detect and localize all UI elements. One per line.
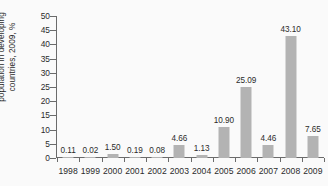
x-axis-tick-label: 2007 — [257, 166, 279, 176]
bar-slot: 1.13 — [191, 16, 213, 158]
bar — [263, 145, 274, 158]
bar-slot: 0.11 — [57, 16, 79, 158]
bar-value-label: 10.90 — [214, 116, 235, 125]
x-axis-tick — [102, 158, 103, 162]
x-axis-tick-label: 2006 — [235, 166, 257, 176]
bar-value-label: 0.02 — [82, 146, 98, 155]
x-axis-tick — [280, 158, 281, 162]
y-axis-tick-label: 20 — [6, 96, 50, 106]
x-axis-tick-label: 1999 — [79, 166, 101, 176]
y-axis-tick-label: 35 — [6, 54, 50, 64]
y-axis-tick-label: 0 — [6, 153, 50, 163]
x-axis-tick-label: 2008 — [280, 166, 302, 176]
x-axis-tick — [57, 158, 58, 162]
bar — [107, 154, 118, 158]
bar-slot: 10.90 — [213, 16, 235, 158]
bar-value-label: 7.65 — [305, 125, 321, 134]
bar-chart: population in developing countries, 2009… — [0, 0, 328, 186]
bar — [196, 155, 207, 158]
bar — [152, 157, 163, 158]
bar-value-label: 0.19 — [127, 146, 143, 155]
bar-series: 0.110.021.500.190.084.661.1310.9025.094.… — [57, 16, 324, 158]
x-axis-tick — [324, 158, 325, 162]
x-axis-tick — [79, 158, 80, 162]
y-axis-tick-label: 45 — [6, 25, 50, 35]
y-axis-tick-label: 25 — [6, 82, 50, 92]
bar-value-label: 25.09 — [236, 76, 257, 85]
bar-value-label: 4.46 — [260, 134, 276, 143]
bar-value-label: 4.66 — [171, 134, 187, 143]
x-axis-tick — [302, 158, 303, 162]
bar — [63, 157, 74, 158]
x-axis-labels: 1998199920002001200220032004200520062007… — [57, 166, 324, 180]
y-axis-tick-label: 10 — [6, 125, 50, 135]
x-axis-tick-label: 2002 — [146, 166, 168, 176]
x-axis-tick — [213, 158, 214, 162]
bar-slot: 0.08 — [146, 16, 168, 158]
bar-slot: 0.19 — [124, 16, 146, 158]
y-axis-tick-label: 40 — [6, 39, 50, 49]
x-axis-tick — [257, 158, 258, 162]
bar — [85, 157, 96, 158]
x-axis-tick-label: 2001 — [124, 166, 146, 176]
x-axis-tick — [191, 158, 192, 162]
bar — [241, 87, 252, 158]
bar — [129, 157, 140, 158]
x-axis-tick-label: 2009 — [302, 166, 324, 176]
bar-slot: 25.09 — [235, 16, 257, 158]
bar — [174, 145, 185, 158]
y-axis-tick-label: 50 — [6, 11, 50, 21]
x-axis-tick — [124, 158, 125, 162]
x-axis-tick — [235, 158, 236, 162]
bar-slot: 1.50 — [102, 16, 124, 158]
y-axis-tick — [50, 158, 56, 159]
bar-value-label: 0.08 — [149, 146, 165, 155]
x-axis-tick — [168, 158, 169, 162]
bar-value-label: 0.11 — [60, 146, 75, 155]
y-axis-tick-label: 30 — [6, 68, 50, 78]
y-axis-tick-label: 5 — [6, 139, 50, 149]
bar — [285, 36, 296, 158]
x-axis-tick-label: 2005 — [213, 166, 235, 176]
bar-slot: 0.02 — [79, 16, 101, 158]
bar-slot: 4.46 — [257, 16, 279, 158]
bar-value-label: 1.13 — [194, 144, 210, 153]
x-axis-tick-label: 2000 — [102, 166, 124, 176]
bar-slot: 43.10 — [280, 16, 302, 158]
x-axis-tick-label: 1998 — [57, 166, 79, 176]
bar — [307, 136, 318, 158]
bar-slot: 4.66 — [168, 16, 190, 158]
y-axis-tick-label: 15 — [6, 110, 50, 120]
x-axis-tick-label: 2004 — [191, 166, 213, 176]
x-axis-tick — [146, 158, 147, 162]
bar-slot: 7.65 — [302, 16, 324, 158]
bar-value-label: 43.10 — [280, 25, 301, 34]
bar — [218, 127, 229, 158]
bar-value-label: 1.50 — [105, 143, 121, 152]
x-axis-tick-label: 2003 — [168, 166, 190, 176]
